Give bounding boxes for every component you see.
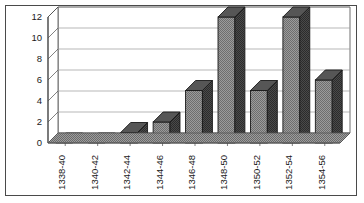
x-axis-category-label: 1348-50 — [218, 155, 229, 190]
y-axis-tick-label: 2 — [37, 116, 42, 127]
x-axis-category-label: 1338-40 — [56, 155, 67, 190]
x-axis-category-label: 1352-54 — [283, 155, 294, 190]
y-axis-tick-label: 8 — [37, 53, 42, 64]
y-axis-tick-label: 6 — [37, 74, 42, 85]
x-axis-category-label: 1346-48 — [186, 155, 197, 190]
bar-chart: 024681012 1338-401340-421342-441344-4613… — [0, 0, 364, 203]
y-axis-tick-label: 0 — [37, 137, 42, 148]
bar — [218, 7, 245, 143]
bar — [283, 7, 310, 143]
y-axis-tick-label: 10 — [31, 32, 42, 43]
x-axis: 1338-401340-421342-441344-461346-481348-… — [56, 143, 327, 190]
x-axis-category-label: 1342-44 — [121, 155, 132, 190]
x-axis-category-label: 1354-56 — [316, 155, 327, 190]
y-axis: 024681012 — [31, 11, 42, 148]
x-axis-category-label: 1344-46 — [154, 155, 165, 190]
chart-floor — [48, 133, 350, 143]
y-axis-tick-label: 4 — [37, 95, 42, 106]
x-axis-category-label: 1350-52 — [251, 155, 262, 190]
chart-figure: 024681012 1338-401340-421342-441344-4613… — [0, 0, 364, 203]
bar — [315, 70, 342, 143]
x-axis-category-label: 1340-42 — [89, 155, 100, 190]
y-axis-tick-label: 12 — [31, 11, 42, 22]
